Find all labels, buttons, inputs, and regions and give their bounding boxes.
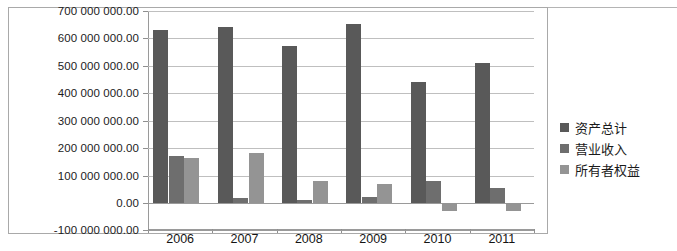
y-axis-tick [143, 148, 148, 149]
legend-swatch-icon [560, 123, 569, 132]
bar [153, 30, 168, 203]
x-axis-tick-label: 2009 [359, 232, 387, 246]
bar-group [282, 11, 328, 203]
bar [313, 181, 328, 203]
legend-item: 营业收入 [560, 138, 672, 159]
bar [411, 82, 426, 203]
plot-area [148, 11, 534, 203]
legend-item-label: 资产总计 [575, 118, 627, 137]
legend-swatch-icon [560, 165, 569, 174]
y-axis-tick-label: 200 000 000.00 [2, 142, 139, 154]
legend-item: 所有者权益 [560, 159, 672, 180]
legend-item: 资产总计 [560, 117, 672, 138]
y-axis-tick [143, 38, 148, 39]
bar [442, 203, 457, 211]
bar [475, 63, 490, 203]
gridline-negative-bound [148, 230, 534, 231]
y-axis-tick-label: 0.00 [2, 197, 139, 209]
y-axis-tick [143, 66, 148, 67]
y-axis-tick-label: 600 000 000.00 [2, 32, 139, 44]
y-axis-tick-label: -100 000 000.00 [2, 224, 139, 236]
x-axis-tick-label: 2010 [424, 232, 452, 246]
bar-group [218, 11, 264, 203]
x-axis-tick-label: 2008 [295, 232, 323, 246]
bar [169, 156, 184, 203]
bar-group [346, 11, 392, 203]
y-axis-tick-label: 500 000 000.00 [2, 60, 139, 72]
y-axis-tick [143, 11, 148, 12]
bar [184, 158, 199, 203]
x-axis-tick-label: 2011 [488, 232, 515, 246]
bar [362, 197, 377, 203]
bar [426, 181, 441, 203]
bar [346, 24, 361, 203]
bar-group [411, 11, 457, 203]
legend-swatch-icon [560, 144, 569, 153]
bar [218, 27, 233, 203]
bar-group [475, 11, 521, 203]
legend-item-label: 所有者权益 [575, 160, 640, 179]
page-top-rule [548, 7, 677, 8]
bar [377, 184, 392, 203]
bar [249, 153, 264, 203]
legend-item-label: 营业收入 [575, 139, 627, 158]
bar-group [153, 11, 199, 203]
y-axis-tick-label: 400 000 000.00 [2, 87, 139, 99]
bar [282, 46, 297, 203]
y-axis-tick-label: 700 000 000.00 [2, 5, 139, 17]
x-axis-tick [534, 229, 535, 233]
x-axis-tick-label: 2007 [231, 232, 259, 246]
bar [506, 203, 521, 211]
y-axis-tick-label: 300 000 000.00 [2, 115, 139, 127]
bar [490, 188, 505, 203]
y-axis-tick [143, 176, 148, 177]
gridline [148, 203, 534, 204]
chart-legend: 资产总计营业收入所有者权益 [560, 117, 672, 180]
bar [233, 198, 248, 203]
x-axis-tick-label: 2006 [166, 232, 194, 246]
y-axis-tick [143, 203, 148, 204]
y-axis-tick [143, 121, 148, 122]
bar [297, 200, 312, 203]
y-axis-tick [143, 93, 148, 94]
y-axis-tick-label: 100 000 000.00 [2, 170, 139, 182]
